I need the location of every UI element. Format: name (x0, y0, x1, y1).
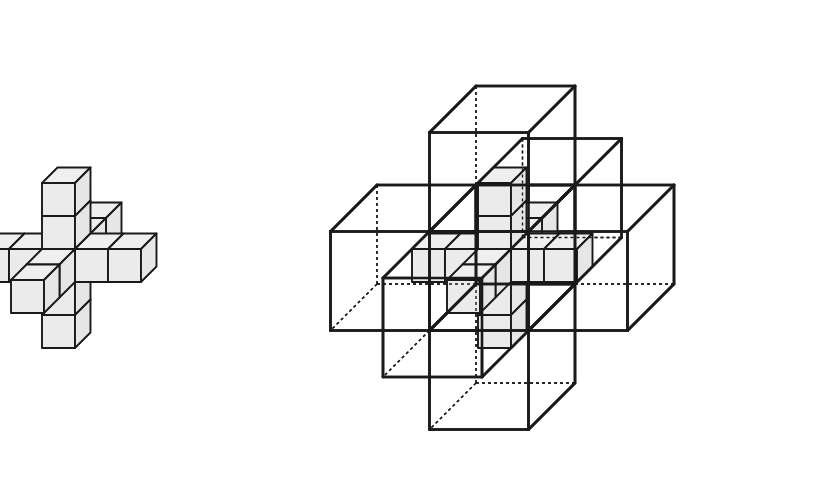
shell-visible-edge (628, 185, 675, 232)
shell-visible-edge (628, 284, 675, 331)
cube-face-front (544, 249, 577, 282)
shell-visible-edge (529, 86, 576, 133)
unit-cube (108, 234, 157, 283)
cube-face-front (75, 249, 108, 282)
shell-hidden-edge (383, 331, 430, 378)
cube-face-front (478, 183, 511, 216)
cube-face-front (42, 315, 75, 348)
cube-face-front (0, 249, 9, 282)
solid-polycube-cross (0, 168, 157, 349)
cube-face-front (42, 216, 75, 249)
shell-hidden-edge (430, 383, 477, 430)
shell-visible-edge (529, 284, 576, 331)
figure-board (0, 0, 821, 482)
shell-hidden-edge (331, 284, 378, 331)
cube-group (0, 168, 157, 349)
polycube-cross-with-transparent-boxes (331, 86, 675, 430)
shell-visible-edge (331, 185, 378, 232)
cube-face-front (11, 280, 44, 313)
polycube-diagram (0, 0, 821, 482)
unit-cube (11, 265, 60, 314)
shell-visible-edge (529, 383, 576, 430)
shell-visible-edge (430, 86, 477, 133)
cube-face-front (108, 249, 141, 282)
cube-face-front (42, 183, 75, 216)
shell-visible-edge (575, 139, 622, 186)
